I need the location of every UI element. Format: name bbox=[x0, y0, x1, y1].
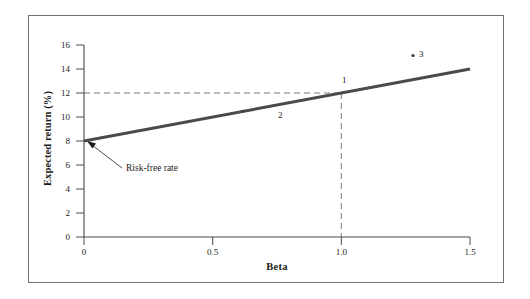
x-tick-label-1-5: 1.5 bbox=[453, 247, 487, 257]
figure-container: 16 14 12 10 8 6 4 2 0 0 0.5 1.0 1.5 Expe… bbox=[0, 0, 530, 299]
risk-free-rate-annotation: Risk-free rate bbox=[126, 163, 178, 173]
x-tick-label-0: 0 bbox=[67, 247, 101, 257]
data-point-2-marker bbox=[242, 110, 244, 112]
data-point-label-3: 3 bbox=[419, 49, 424, 59]
y-axis-ticks bbox=[76, 45, 84, 237]
y-tick-label-16: 16 bbox=[48, 40, 70, 50]
risk-free-rate-arrow bbox=[87, 141, 122, 168]
data-point-label-1: 1 bbox=[342, 75, 347, 85]
y-axis-title: Expected return (%) bbox=[42, 59, 53, 219]
x-axis-ticks bbox=[84, 237, 470, 245]
data-point-label-2: 2 bbox=[278, 110, 283, 120]
x-axis-title: Beta bbox=[84, 261, 470, 272]
security-market-line bbox=[84, 69, 470, 141]
x-tick-label-0-5: 0.5 bbox=[196, 247, 230, 257]
data-point-3-marker bbox=[411, 54, 414, 57]
y-tick-label-0: 0 bbox=[48, 232, 70, 242]
x-tick-label-1-0: 1.0 bbox=[324, 247, 358, 257]
